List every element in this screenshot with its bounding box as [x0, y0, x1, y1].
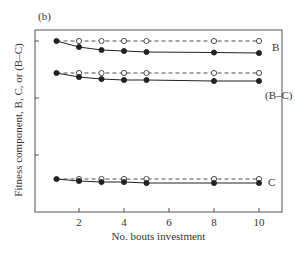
filled-marker: [121, 48, 126, 53]
open-marker: [144, 70, 149, 75]
line-chart: 246810B(B–C)C: [0, 0, 295, 254]
filled-marker: [54, 38, 59, 43]
filled-marker: [256, 50, 261, 55]
filled-marker: [54, 70, 59, 75]
filled-marker: [144, 180, 149, 185]
filled-marker: [211, 78, 216, 83]
x-tick-label: 8: [211, 216, 217, 228]
series-label-b: B: [272, 41, 279, 53]
open-marker: [144, 38, 149, 43]
filled-marker: [211, 50, 216, 55]
filled-marker: [99, 179, 104, 184]
open-marker: [76, 38, 81, 43]
filled-marker: [211, 180, 216, 185]
solid-series-line: [57, 41, 260, 53]
series-label-b-minus-c: (B–C): [265, 89, 293, 102]
open-marker: [99, 70, 104, 75]
x-tick-label: 4: [121, 216, 127, 228]
filled-marker: [54, 176, 59, 181]
open-marker: [256, 70, 261, 75]
open-marker: [211, 38, 216, 43]
plot-frame: [35, 30, 282, 212]
filled-marker: [76, 178, 81, 183]
open-marker: [121, 70, 126, 75]
series-label-c: C: [268, 176, 275, 188]
filled-marker: [121, 77, 126, 82]
filled-marker: [76, 74, 81, 79]
filled-marker: [121, 179, 126, 184]
open-marker: [121, 38, 126, 43]
filled-marker: [99, 76, 104, 81]
solid-series-line: [57, 179, 260, 183]
filled-marker: [144, 49, 149, 54]
filled-marker: [144, 77, 149, 82]
open-marker: [99, 38, 104, 43]
open-marker: [211, 70, 216, 75]
x-tick-label: 6: [166, 216, 172, 228]
filled-marker: [256, 78, 261, 83]
filled-marker: [76, 44, 81, 49]
x-tick-label: 10: [254, 216, 266, 228]
open-marker: [256, 38, 261, 43]
x-tick-label: 2: [76, 216, 82, 228]
solid-series-line: [57, 73, 260, 81]
filled-marker: [99, 47, 104, 52]
filled-marker: [256, 180, 261, 185]
